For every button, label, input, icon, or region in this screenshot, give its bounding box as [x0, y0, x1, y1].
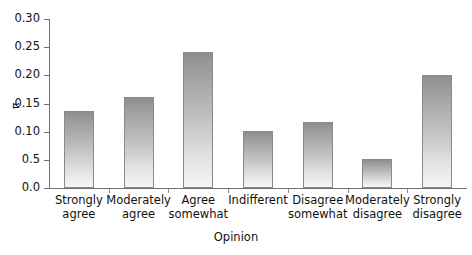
x-axis-tick-label-line1: Agree: [181, 193, 215, 207]
y-axis-tick-mark: [44, 104, 49, 105]
y-axis-tick-mark: [44, 75, 49, 76]
y-axis-tick-label: 0.0: [4, 182, 40, 194]
x-axis-tick-mark: [168, 189, 169, 193]
y-axis-tick-label: 0.25: [4, 41, 40, 53]
x-axis-tick-mark: [288, 189, 289, 193]
y-axis-tick-label: 0.20: [4, 69, 40, 81]
x-axis-tick-mark: [228, 189, 229, 193]
y-axis-tick-label: 0.30: [4, 13, 40, 25]
x-axis-tick-label: Stronglydisagree: [401, 193, 472, 221]
x-axis-tick-label-line1: Moderately: [106, 193, 171, 207]
bar: [243, 131, 273, 188]
y-axis-tick-mark: [44, 160, 49, 161]
bar: [64, 111, 94, 188]
x-axis-tick-mark: [348, 189, 349, 193]
y-axis-tick-mark: [44, 47, 49, 48]
bar: [124, 97, 154, 188]
x-axis-tick-label-line1: Indifferent: [228, 193, 288, 207]
y-axis-tick-label: 0.10: [4, 126, 40, 138]
x-axis-tick-label-line2: disagree: [401, 207, 472, 221]
bar-chart-figure: π 0.300.250.200.150.100.50.0 Stronglyagr…: [0, 0, 472, 255]
bar: [362, 159, 392, 188]
y-axis-tick-mark: [44, 132, 49, 133]
y-axis-tick-mark: [44, 19, 49, 20]
x-axis-tick-label-line2: somewhat: [162, 207, 234, 221]
plot-area: [49, 19, 467, 188]
bar: [303, 122, 333, 188]
y-axis-tick-mark: [44, 188, 49, 189]
x-axis-tick-label-line1: Moderately: [345, 193, 410, 207]
x-axis-tick-label-line1: Strongly: [413, 193, 461, 207]
x-axis-line: [49, 188, 467, 189]
x-axis-tick-mark: [109, 189, 110, 193]
y-axis-tick-label: 0.15: [4, 98, 40, 110]
bar: [183, 52, 213, 188]
x-axis-title: Opinion: [0, 230, 472, 244]
x-axis-tick-label-line1: Strongly: [55, 193, 103, 207]
y-axis-tick-labels: 0.300.250.200.150.100.50.0: [0, 0, 40, 255]
x-axis-tick-label-line1: Disagree: [292, 193, 343, 207]
bar: [422, 75, 452, 188]
x-axis-tick-mark: [407, 189, 408, 193]
y-axis-tick-label: 0.5: [4, 154, 40, 166]
